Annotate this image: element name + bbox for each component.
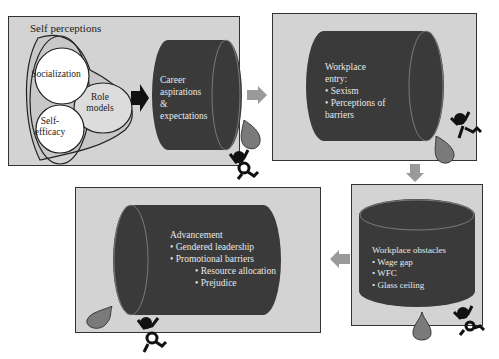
role-models-line1: Role (78, 92, 122, 103)
self-efficacy-line2: efficacy (28, 127, 72, 138)
gray-arrow-down-icon (406, 164, 424, 182)
text-line: barriers (325, 109, 385, 121)
text-line: • Resource allocation (170, 265, 276, 277)
text-line: aspirations (160, 86, 207, 98)
text-line: expectations (160, 110, 207, 122)
text-line: • Sexism (325, 85, 385, 97)
text-line: • WFC (372, 268, 446, 280)
role-models-line2: models (78, 103, 122, 114)
text-line: • Promotional barriers (170, 253, 276, 265)
text-line: Advancement (170, 229, 276, 241)
text-line: • Glass ceiling (372, 280, 446, 292)
cylinder-text-career: Career aspirations & expectations (160, 74, 207, 122)
circle-label-self-efficacy: Self- efficacy (28, 116, 72, 138)
cylinder-text-workplace-entry: Workplace entry: • Sexism • Perceptions … (325, 61, 385, 121)
cylinder-text-advancement: Advancement • Gendered leadership • Prom… (170, 229, 276, 289)
self-efficacy-line1: Self- (28, 116, 72, 127)
text-line: & (160, 98, 207, 110)
struggling-figure-icon (136, 314, 170, 354)
black-arrow-right-icon (131, 84, 149, 112)
text-line: entry: (325, 73, 385, 85)
struggling-figure-icon (452, 304, 486, 336)
text-line: Career (160, 74, 207, 86)
water-drop-icon (412, 312, 432, 342)
water-drop-icon (86, 306, 114, 330)
gray-arrow-left-icon (330, 250, 350, 268)
circle-label-role-models: Role models (78, 92, 122, 114)
text-line: • Gendered leadership (170, 241, 276, 253)
text-line: • Prejudice (170, 277, 276, 289)
struggling-figure-icon (228, 148, 262, 180)
text-line: • Wage gap (372, 257, 446, 269)
gray-arrow-right-icon (247, 86, 267, 104)
text-line: Workplace (325, 61, 385, 73)
struggling-figure-icon (449, 110, 483, 142)
cylinder-text-workplace-obstacles: Workplace obstacles • Wage gap • WFC • G… (372, 245, 446, 291)
text-line: • Perceptions of (325, 97, 385, 109)
circle-label-socialization: Socialization (29, 69, 83, 80)
text-line: Workplace obstacles (372, 245, 446, 257)
